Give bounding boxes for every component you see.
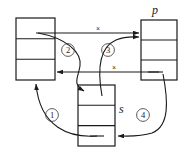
cross-mark-p-to-left: × [112,64,116,71]
node-p-label: p [151,3,158,17]
node-s-box [78,85,115,146]
node-s-label: s [119,102,124,116]
edge-step-4-path [118,74,166,136]
linked-list-insertion-diagram: p s × × 1 2 [0,0,182,156]
node-left [16,18,55,80]
edge-step-4: 4 [118,74,166,136]
step-2-number: 2 [66,45,70,55]
node-p: p [141,3,177,80]
step-4-number: 4 [141,110,146,120]
step-1-number: 1 [50,110,54,120]
diagram-canvas: p s × × 1 2 [0,0,182,156]
node-left-box [16,18,55,80]
step-3-number: 3 [106,45,110,55]
node-p-box [141,20,177,80]
cross-mark-left-to-p: × [96,25,100,32]
node-s: s [78,85,124,146]
